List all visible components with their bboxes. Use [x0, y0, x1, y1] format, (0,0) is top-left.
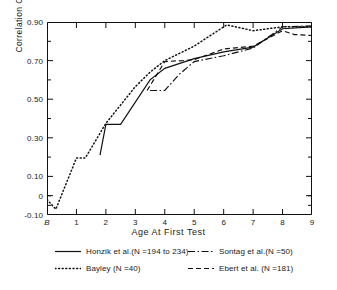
x-tick-label: 6: [221, 218, 226, 227]
y-tick-label: 0.70: [27, 56, 43, 65]
chart-canvas: [47, 22, 312, 215]
x-tick-label: 9: [310, 218, 315, 227]
chart-legend: Honzik et al.(N =194 to 234) Bayley (N =…: [0, 245, 337, 290]
y-tick-label: 0.90: [27, 18, 43, 27]
y-tick-label: 0.50: [27, 95, 43, 104]
series-line-2: [150, 26, 312, 91]
series-line-3: [147, 31, 312, 91]
legend-item-sontag: Sontag et al.(N =50): [188, 247, 293, 256]
x-tick-label: 3: [133, 218, 138, 227]
y-tick-label: 0.30: [27, 133, 43, 142]
x-tick-label: 7: [251, 218, 256, 227]
legend-swatch-dotted-icon: [55, 264, 81, 273]
y-axis-title: Correlation Coefficient: [14, 0, 24, 66]
legend-item-ebert: Ebert et al. (N =181): [188, 264, 293, 273]
figure-container: Correlation Coefficient 0.900.700.500.30…: [0, 0, 337, 290]
legend-label-sontag: Sontag et al.(N =50): [219, 247, 293, 256]
legend-swatch-dashdot-icon: [188, 247, 214, 256]
legend-label-honzik: Honzik et al.(N =194 to 234): [86, 247, 189, 256]
x-tick-label: 2: [104, 218, 109, 227]
x-tick-label: 1: [74, 218, 79, 227]
legend-item-bayley: Bayley (N =40): [55, 264, 141, 273]
y-tick-label: 0: [38, 191, 43, 200]
y-tick-label: -0.10: [24, 211, 43, 220]
plot-area: Correlation Coefficient 0.900.700.500.30…: [47, 22, 312, 215]
x-tick-label: 5: [192, 218, 197, 227]
x-axis-title: Age At First Test: [0, 227, 337, 237]
legend-label-bayley: Bayley (N =40): [86, 264, 141, 273]
legend-item-honzik: Honzik et al.(N =194 to 234): [55, 247, 189, 256]
legend-label-ebert: Ebert et al. (N =181): [219, 264, 293, 273]
legend-swatch-dashed-icon: [188, 264, 214, 273]
series-line-1: [47, 25, 312, 209]
x-tick-label: 8: [280, 218, 285, 227]
y-tick-label: 0.10: [27, 172, 43, 181]
x-tick-label: 4: [162, 218, 167, 227]
legend-swatch-solid-icon: [55, 247, 81, 256]
x-tick-label: B: [44, 218, 49, 227]
